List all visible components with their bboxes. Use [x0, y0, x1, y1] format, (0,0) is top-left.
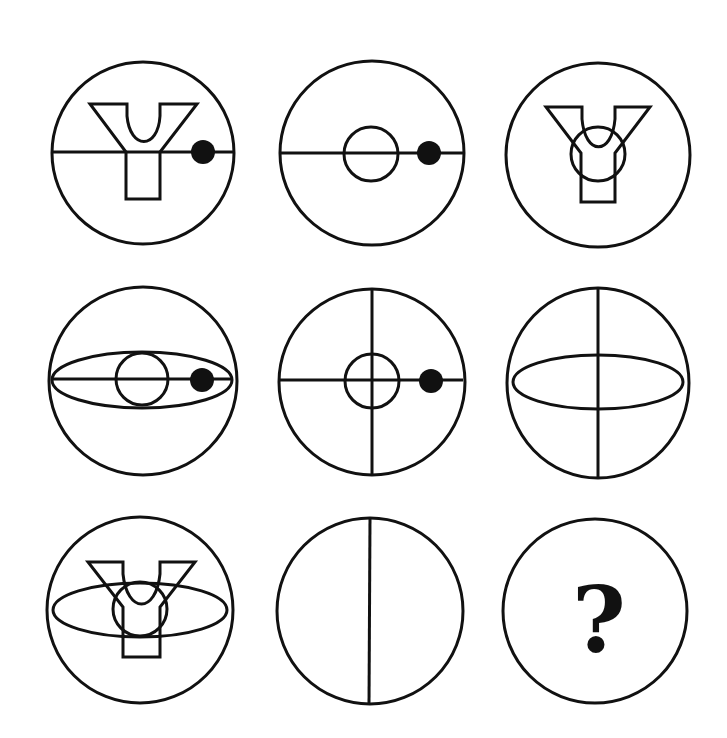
filled-dot — [419, 369, 443, 393]
ellipse — [53, 583, 227, 637]
y-shape — [88, 562, 195, 657]
cell-r3-c1 — [47, 517, 233, 703]
matrix-puzzle: ? — [0, 0, 727, 738]
outer-circle — [506, 63, 690, 247]
y-shape — [546, 107, 650, 202]
filled-dot — [190, 368, 214, 392]
cell-r2-c1 — [49, 287, 237, 475]
cell-r3-c3[interactable]: ? — [503, 519, 687, 703]
question-mark-icon: ? — [572, 566, 626, 674]
small-circle — [571, 127, 625, 181]
cell-r1-c2 — [280, 61, 464, 245]
filled-dot — [417, 141, 441, 165]
cell-r2-c3 — [507, 288, 689, 478]
filled-dot — [191, 140, 215, 164]
vertical-line — [369, 518, 370, 704]
outer-circle — [47, 517, 233, 703]
cell-r3-c2 — [277, 518, 463, 704]
cell-r1-c1 — [52, 62, 234, 244]
cell-r1-c3 — [506, 63, 690, 247]
cell-r2-c2 — [279, 289, 465, 475]
